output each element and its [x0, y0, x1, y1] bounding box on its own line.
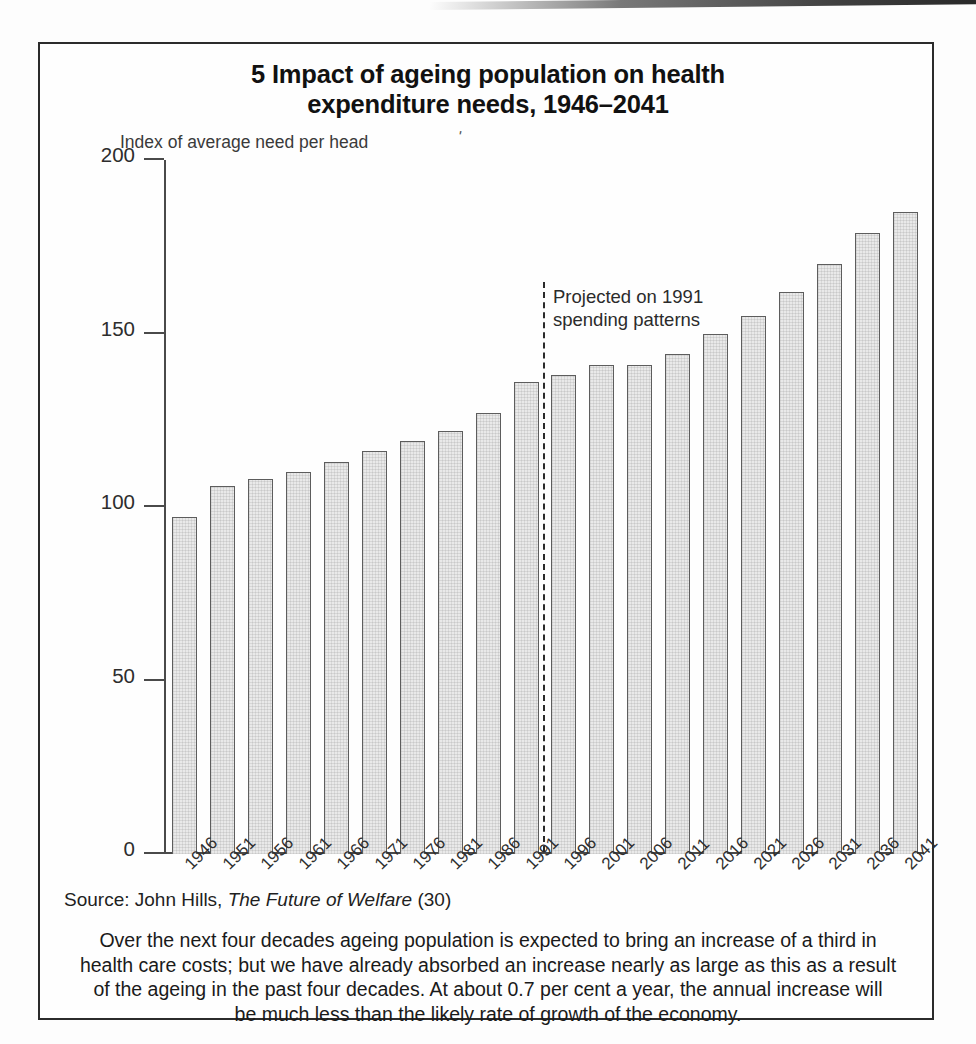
bar-slot: [324, 156, 349, 854]
bar: [551, 375, 576, 854]
bar-slot: [476, 156, 501, 854]
bar: [324, 462, 349, 854]
bar: [248, 479, 273, 854]
bar-slot: [210, 156, 235, 854]
scan-edge-artifact: [430, 0, 976, 10]
figure-frame: 5 Impact of ageing population on health …: [38, 42, 934, 1020]
bar: [362, 451, 387, 854]
projection-annotation: Projected on 1991spending patterns: [553, 286, 703, 332]
y-axis-tick: 200: [144, 158, 164, 160]
y-axis-tick-label: 50: [112, 664, 135, 688]
y-axis-tick: 100: [144, 505, 164, 507]
bar: [703, 334, 728, 855]
bar: [172, 517, 197, 854]
y-axis-tick-label: 150: [101, 317, 135, 341]
bar-slot: [855, 156, 880, 854]
source-work-title: The Future of Welfare: [228, 889, 412, 910]
bar-slot: [703, 156, 728, 854]
bar-slot: [400, 156, 425, 854]
bar-slot: [514, 156, 539, 854]
bar: [400, 441, 425, 854]
bar: [438, 431, 463, 854]
y-axis-tick-label: 200: [101, 143, 135, 167]
bar-slot: [741, 156, 766, 854]
projection-annotation-line-2: spending patterns: [553, 309, 703, 332]
y-axis-tick-label: 100: [101, 490, 135, 514]
bar: [210, 486, 235, 854]
bar-slot: [893, 156, 918, 854]
bar-slot: [627, 156, 652, 854]
bar-slot: [362, 156, 387, 854]
bar: [779, 292, 804, 854]
figure-caption: Over the next four decades ageing popula…: [66, 928, 910, 1026]
bar-slot: [172, 156, 197, 854]
bar-slot: [665, 156, 690, 854]
bar: [665, 354, 690, 854]
y-axis-tick-label: 0: [124, 837, 135, 861]
source-reference-number: (30): [417, 889, 451, 910]
plot-area: 050100150200 194619511956196119661971197…: [100, 154, 928, 914]
y-axis-tick: 0: [144, 852, 164, 854]
bar-slot: [589, 156, 614, 854]
caption-line-4: be much less than the likely rate of gro…: [66, 1002, 910, 1027]
bar-slot: [438, 156, 463, 854]
source-prefix: Source: John Hills,: [64, 889, 222, 910]
stray-ink-mark: ': [456, 128, 463, 146]
bar-slot: [779, 156, 804, 854]
bar: [627, 365, 652, 854]
y-axis-tick: 150: [144, 332, 164, 334]
bar: [476, 413, 501, 854]
bar-slot: [551, 156, 576, 854]
bar-slot: [817, 156, 842, 854]
projection-divider-line: [543, 282, 545, 852]
source-note: Source: John Hills, The Future of Welfar…: [64, 889, 451, 911]
bar-slot: [248, 156, 273, 854]
chart-title-line-1: 5 Impact of ageing population on health: [100, 60, 876, 90]
chart-title-line-2: expenditure needs, 1946–2041: [100, 90, 876, 120]
bar: [855, 233, 880, 854]
caption-line-3: of the ageing in the past four decades. …: [66, 977, 910, 1002]
y-axis-caption: Index of average need per head: [120, 132, 368, 153]
projection-annotation-line-1: Projected on 1991: [553, 286, 703, 309]
bar: [514, 382, 539, 854]
bar: [589, 365, 614, 854]
y-axis-tick: 50: [144, 679, 164, 681]
chart-title: 5 Impact of ageing population on health …: [100, 60, 876, 119]
bar: [286, 472, 311, 854]
caption-line-1: Over the next four decades ageing popula…: [66, 928, 910, 953]
bar-series: [166, 154, 924, 854]
bar: [817, 264, 842, 854]
caption-line-2: health care costs; but we have already a…: [66, 953, 910, 978]
bar: [741, 316, 766, 854]
bar: [893, 212, 918, 854]
bar-slot: [286, 156, 311, 854]
